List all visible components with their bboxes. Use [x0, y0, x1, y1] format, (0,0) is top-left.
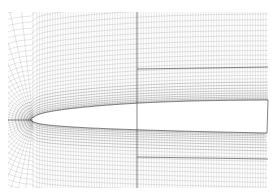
airfoil-mesh-figure: [0, 0, 272, 195]
mesh-grid-lines: [0, 0, 268, 195]
